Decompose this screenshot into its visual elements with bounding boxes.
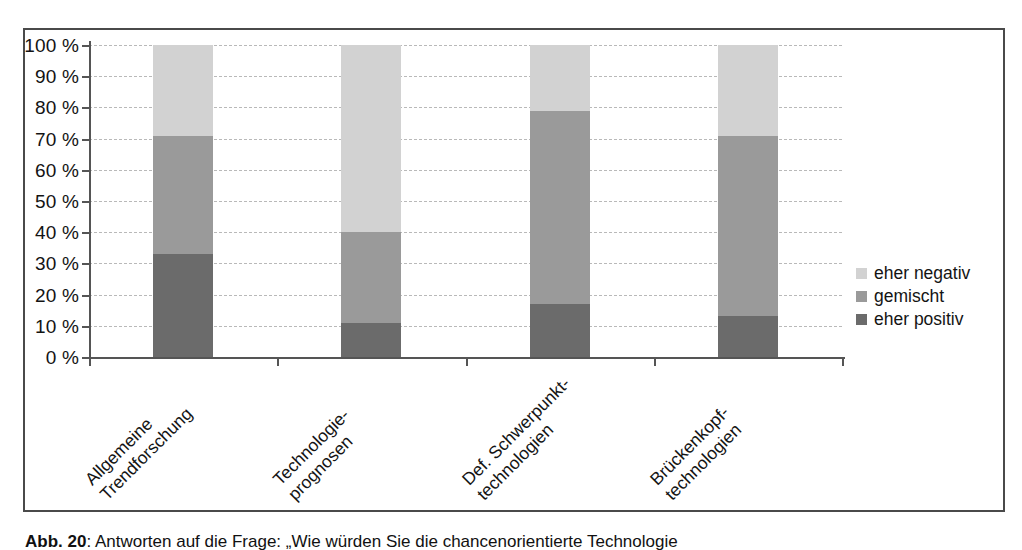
chart-legend: eher negativgemischteher positiv [856, 262, 1006, 331]
plot-area [89, 45, 842, 357]
y-axis-tick-label: 60 % [23, 161, 79, 180]
y-axis-tick [82, 263, 90, 265]
y-axis-tick [82, 107, 90, 109]
bar-segment [153, 254, 213, 357]
bar-stack [341, 45, 401, 357]
x-axis-tick [277, 357, 279, 366]
y-axis-tick [82, 232, 90, 234]
legend-label: eher negativ [874, 264, 970, 283]
y-axis-tick-label: 20 % [23, 286, 79, 305]
y-axis-tick-label: 0 % [23, 348, 79, 367]
legend-swatch-icon [856, 268, 867, 279]
x-axis-category-label: AllgemeineTrendforschung [81, 389, 197, 505]
y-axis-tick [82, 201, 90, 203]
bar-segment [718, 316, 778, 357]
bar-stack [718, 45, 778, 357]
y-axis-line [89, 41, 91, 359]
figure-caption-separator: : [86, 532, 95, 550]
bar-segment [718, 45, 778, 135]
y-axis-labels: 100 %90 %80 %70 %60 %50 %40 %30 %20 %10 … [25, 45, 79, 357]
bar-stack [153, 45, 213, 357]
legend-label: eher positiv [874, 310, 964, 329]
figure-caption-text: Antworten auf die Frage: „Wie würden Sie… [95, 532, 678, 550]
bar-segment [530, 45, 590, 111]
x-axis-tick [89, 357, 91, 366]
y-axis-tick-label: 100 % [23, 36, 79, 55]
bar-segment [718, 136, 778, 317]
x-axis-category-label: Brückenkopf-technologien [646, 402, 749, 505]
y-axis-tick [82, 326, 90, 328]
chart-frame: 100 %90 %80 %70 %60 %50 %40 %30 %20 %10 … [23, 28, 1005, 512]
y-axis-tick [82, 76, 90, 78]
legend-swatch-icon [856, 314, 867, 325]
x-axis-tick [842, 357, 844, 366]
figure-caption: Abb. 20: Antworten auf die Frage: „Wie w… [25, 531, 1005, 550]
x-axis-category-label: Def. Schwerpunkt-technologien [458, 373, 589, 504]
y-axis-tick [82, 45, 90, 47]
y-axis-tick-label: 10 % [23, 317, 79, 336]
y-axis-tick-label: 40 % [23, 223, 79, 242]
bar-segment [341, 45, 401, 232]
y-axis-tick [82, 170, 90, 172]
legend-swatch-icon [856, 291, 867, 302]
y-axis-tick-label: 50 % [23, 192, 79, 211]
y-axis-tick [82, 295, 90, 297]
x-axis-category-label: Technologie-prognosen [269, 405, 369, 505]
y-axis-tick [82, 139, 90, 141]
bar-segment [530, 111, 590, 304]
bar-stack [530, 45, 590, 357]
y-axis-tick-label: 70 % [23, 130, 79, 149]
y-axis-tick-label: 80 % [23, 98, 79, 117]
x-axis-tick [466, 357, 468, 366]
bar-segment [341, 323, 401, 357]
legend-label: gemischt [874, 287, 944, 306]
bar-segment [153, 136, 213, 255]
bar-segment [153, 45, 213, 135]
legend-item: eher positiv [856, 308, 1006, 331]
bar-segment [341, 232, 401, 322]
legend-item: gemischt [856, 285, 1006, 308]
figure-caption-number: Abb. 20 [25, 532, 86, 550]
legend-item: eher negativ [856, 262, 1006, 285]
x-axis-tick [654, 357, 656, 366]
y-axis-tick-label: 30 % [23, 254, 79, 273]
bar-segment [530, 304, 590, 357]
y-axis-tick-label: 90 % [23, 67, 79, 86]
